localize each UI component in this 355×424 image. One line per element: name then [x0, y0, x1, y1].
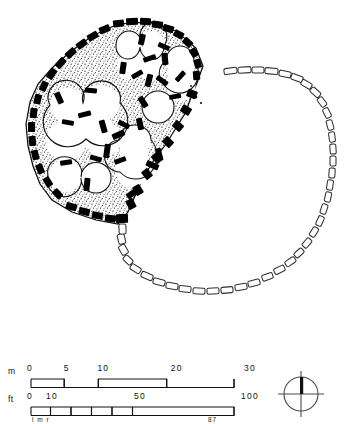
scale-feet-left-note: l m r [32, 416, 50, 423]
scale-feet-tick-0: 0 [27, 391, 33, 401]
scale-metres-tick-0: 0 [27, 363, 33, 373]
scale-metres-bar [30, 375, 235, 384]
scale-metres-unit-label: m [8, 366, 16, 376]
scale-metres-tick-5: 5 [64, 363, 70, 373]
scale-feet-tick-10: 10 [46, 391, 58, 401]
scale-metres-tick-20: 20 [171, 363, 183, 373]
plan-svg [0, 0, 355, 362]
scale-bars: m 0 5 10 20 30 ft 0 [0, 362, 250, 424]
scale-metres: m 0 5 10 20 30 [0, 362, 250, 388]
scale-metres-tick-10: 10 [97, 363, 109, 373]
site-plan-figure: m 0 5 10 20 30 ft 0 [0, 0, 355, 424]
scale-feet-right-note: 87 [208, 416, 217, 423]
scale-feet-unit-label: ft [8, 394, 14, 404]
scale-feet-tick-50: 50 [134, 391, 146, 401]
north-arrow-icon [268, 368, 334, 420]
scale-feet-bar [30, 403, 235, 412]
scale-feet: ft 0 10 50 100 l m r 87 [0, 390, 250, 416]
scale-metres-tick-30: 30 [244, 363, 256, 373]
plan-drawing [0, 0, 355, 362]
scale-feet-tick-100: 100 [241, 391, 259, 401]
